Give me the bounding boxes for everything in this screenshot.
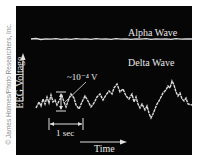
amplitude-label: ~10⁻⁴ V [67,72,98,82]
amplitude-pointer [65,82,86,102]
delta-wave-label: Delta Wave [128,57,175,68]
scale-label: 1 sec [56,128,74,138]
alpha-wave-trace [31,39,192,40]
credit-text: © James Holmes/Photo Researchers, Inc. [5,23,12,144]
delta-wave-trace [36,81,192,118]
time-arrow-head [120,140,127,145]
time-label: Time [94,143,115,154]
alpha-wave-label: Alpha Wave [128,27,177,38]
eeg-panel: Alpha Wave Delta Wave ~10⁻⁴ V 1 sec Time… [16,6,192,155]
y-axis-label: EEG Voltage [14,56,25,108]
